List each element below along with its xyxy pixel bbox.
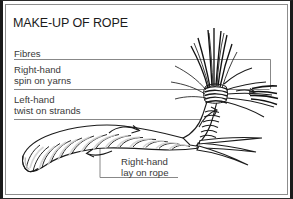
- label-right-hand-lay-line2: lay on rope: [121, 167, 168, 178]
- label-fibres: Fibres: [14, 48, 41, 59]
- figure-panel: MAKE-UP OF ROPE: [0, 0, 293, 199]
- label-right-hand-spin-line1: Right-hand: [14, 64, 61, 75]
- label-right-hand-lay-line1: Right-hand: [121, 156, 168, 167]
- label-left-hand-twist: Left-hand twist on strands: [14, 94, 81, 116]
- label-right-hand-spin: Right-hand spin on yarns: [14, 64, 71, 86]
- label-left-hand-twist-line2: twist on strands: [14, 105, 81, 116]
- laid-rope-body: [23, 125, 200, 172]
- label-right-hand-lay: Right-hand lay on rope: [121, 156, 168, 178]
- label-fibres-line1: Fibres: [14, 48, 41, 59]
- unlaid-strands: [183, 93, 262, 165]
- strand-splay-3: [199, 138, 262, 144]
- label-left-hand-twist-line1: Left-hand: [14, 94, 55, 105]
- label-right-hand-spin-line2: spin on yarns: [14, 75, 71, 86]
